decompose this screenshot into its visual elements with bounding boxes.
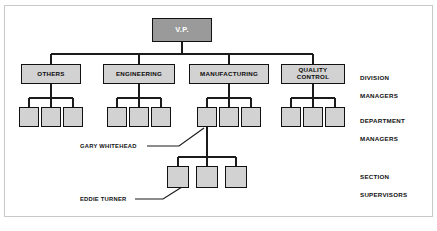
node-department-others-1[interactable] bbox=[19, 107, 39, 127]
node-vp[interactable]: V.P. bbox=[152, 18, 212, 42]
node-section-supervisor-3[interactable] bbox=[225, 166, 247, 188]
tier-label-section-line1: SECTION bbox=[360, 173, 407, 182]
node-department-manufacturing-3[interactable] bbox=[241, 107, 261, 127]
tier-label-department-line2: MANAGERS bbox=[360, 135, 405, 144]
node-department-others-3[interactable] bbox=[63, 107, 83, 127]
node-department-quality-3[interactable] bbox=[325, 107, 345, 127]
tier-label-division-managers: DIVISION MANAGERS bbox=[360, 65, 398, 110]
tier-label-department-managers: DEPARTMENT MANAGERS bbox=[360, 108, 405, 153]
node-department-engineering-1[interactable] bbox=[107, 107, 127, 127]
node-division-others[interactable]: OTHERS bbox=[21, 64, 81, 84]
callout-eddie-turner: EDDIE TURNER bbox=[80, 196, 126, 202]
node-division-quality-control-label-line2: CONTROL bbox=[297, 74, 329, 81]
node-division-others-label: OTHERS bbox=[37, 71, 64, 78]
node-department-engineering-2[interactable] bbox=[129, 107, 149, 127]
node-division-manufacturing-label: MANUFACTURING bbox=[200, 71, 258, 78]
node-department-engineering-3[interactable] bbox=[151, 107, 171, 127]
node-vp-label: V.P. bbox=[175, 26, 189, 34]
node-division-engineering-label: ENGINEERING bbox=[116, 71, 162, 78]
node-section-supervisor-1[interactable] bbox=[167, 166, 189, 188]
leader-line-gary-whitehead bbox=[147, 128, 204, 146]
leader-line-eddie-turner bbox=[135, 187, 182, 199]
tier-label-section-supervisors: SECTION SUPERVISORS bbox=[360, 164, 407, 209]
tier-label-division-line2: MANAGERS bbox=[360, 92, 398, 101]
node-department-others-2[interactable] bbox=[41, 107, 61, 127]
callout-gary-whitehead: GARY WHITEHEAD bbox=[80, 143, 137, 149]
node-section-supervisor-2[interactable] bbox=[196, 166, 218, 188]
node-department-manufacturing-1[interactable] bbox=[197, 107, 217, 127]
node-division-engineering[interactable]: ENGINEERING bbox=[103, 64, 175, 84]
tier-label-section-line2: SUPERVISORS bbox=[360, 191, 407, 200]
node-department-quality-2[interactable] bbox=[303, 107, 323, 127]
node-division-manufacturing[interactable]: MANUFACTURING bbox=[189, 64, 269, 84]
org-chart-figure: V.P. OTHERS ENGINEERING MANUFACTURING QU… bbox=[0, 0, 437, 231]
tier-label-division-line1: DIVISION bbox=[360, 74, 398, 83]
tier-label-department-line1: DEPARTMENT bbox=[360, 117, 405, 126]
node-division-quality-control[interactable]: QUALITY CONTROL bbox=[281, 64, 345, 84]
node-department-quality-1[interactable] bbox=[281, 107, 301, 127]
node-department-manufacturing-2[interactable] bbox=[219, 107, 239, 127]
